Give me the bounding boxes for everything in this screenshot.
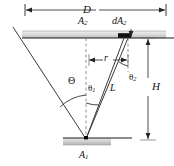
angle-arc-theta1 — [86, 103, 99, 105]
label-theta2-subscript: 2 — [133, 76, 136, 82]
label-theta2: θ2 — [129, 73, 136, 82]
label-A2-subscript: 2 — [84, 19, 87, 26]
label-H: H — [152, 81, 160, 92]
label-A1: A1 — [79, 150, 89, 161]
label-theta1: θ1 — [88, 84, 95, 93]
upper-plate-A2 — [22, 31, 174, 38]
label-r: r — [104, 53, 108, 63]
label-L: L — [110, 83, 116, 93]
label-dA2-base: dA — [112, 15, 123, 26]
label-Theta: Θ — [68, 76, 75, 86]
label-A2: A2 — [78, 16, 88, 27]
lower-plate-A1 — [63, 138, 132, 145]
label-dA2: dA2 — [112, 16, 127, 27]
label-D: D — [83, 4, 91, 15]
label-A1-subscript: 1 — [85, 153, 88, 160]
label-dA2-subscript: 2 — [123, 19, 126, 26]
angle-arc-theta2 — [119, 62, 128, 66]
dimension-line-D — [25, 4, 166, 16]
dA2-element — [118, 29, 131, 38]
label-theta1-subscript: 1 — [92, 87, 95, 93]
apex-point — [84, 136, 88, 139]
radiation-geometry-figure: D A2 dA2 r θ2 H Θ θ1 L A1 — [0, 0, 174, 166]
